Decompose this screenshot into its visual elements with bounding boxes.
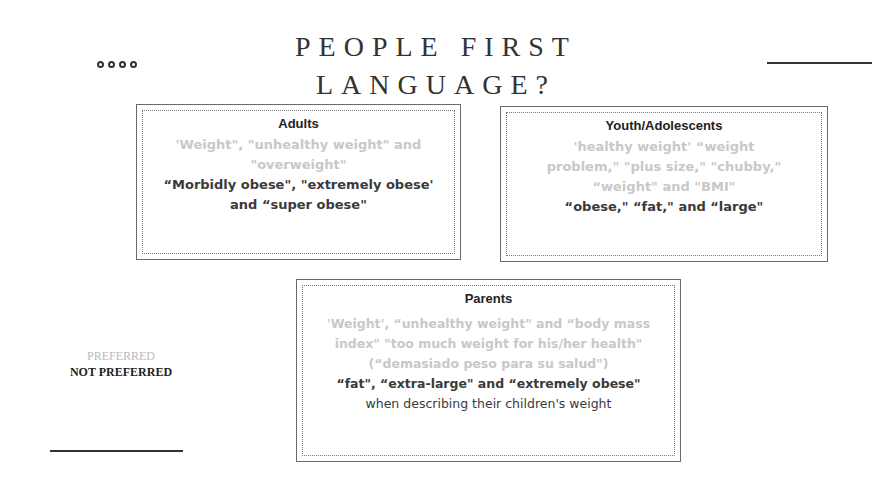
legend: PREFERRED NOT PREFERRED: [46, 348, 196, 380]
legend-not-preferred: NOT PREFERRED: [46, 364, 196, 380]
adults-box-inner: Adults 'Weight", "unhealthy weight" and …: [142, 110, 455, 254]
youth-not-preferred-terms: “obese," “fat," and “large": [507, 197, 821, 217]
parents-title: Parents: [303, 290, 674, 308]
page-title: PEOPLE FIRST LANGUAGE?: [250, 28, 622, 104]
adults-box: Adults 'Weight", "unhealthy weight" and …: [136, 104, 461, 260]
adults-preferred-terms: 'Weight", "unhealthy weight" and "overwe…: [143, 135, 454, 175]
legend-preferred: PREFERRED: [46, 348, 196, 364]
parents-extra-note: when describing their children's weight: [303, 394, 674, 414]
adults-title: Adults: [143, 115, 454, 133]
title-line-2: LANGUAGE?: [250, 66, 622, 104]
parents-not-preferred-terms: “fat", “extra-large" and “extremely obes…: [303, 374, 674, 394]
title-line-1: PEOPLE FIRST: [250, 28, 622, 66]
circle-icon: [97, 61, 104, 68]
parents-preferred-terms: 'Weight', “unhealthy weight" and “body m…: [303, 314, 674, 374]
youth-box: Youth/Adolescents 'healthy weight' “weig…: [500, 106, 828, 262]
decorative-line-bottom-left: [50, 450, 183, 452]
youth-box-inner: Youth/Adolescents 'healthy weight' “weig…: [506, 112, 822, 256]
circle-icon: [130, 61, 137, 68]
circle-icon: [119, 61, 126, 68]
parents-box-inner: Parents 'Weight', “unhealthy weight" and…: [302, 285, 675, 456]
circle-icon: [108, 61, 115, 68]
parents-box: Parents 'Weight', “unhealthy weight" and…: [296, 279, 681, 462]
youth-title: Youth/Adolescents: [507, 117, 821, 135]
adults-not-preferred-terms: “Morbidly obese", "extremely obese' and …: [143, 175, 454, 215]
youth-preferred-terms: 'healthy weight' “weight problem," "plus…: [507, 137, 821, 197]
decorative-line-top-right: [767, 62, 872, 64]
four-circles-icon: [97, 61, 137, 68]
